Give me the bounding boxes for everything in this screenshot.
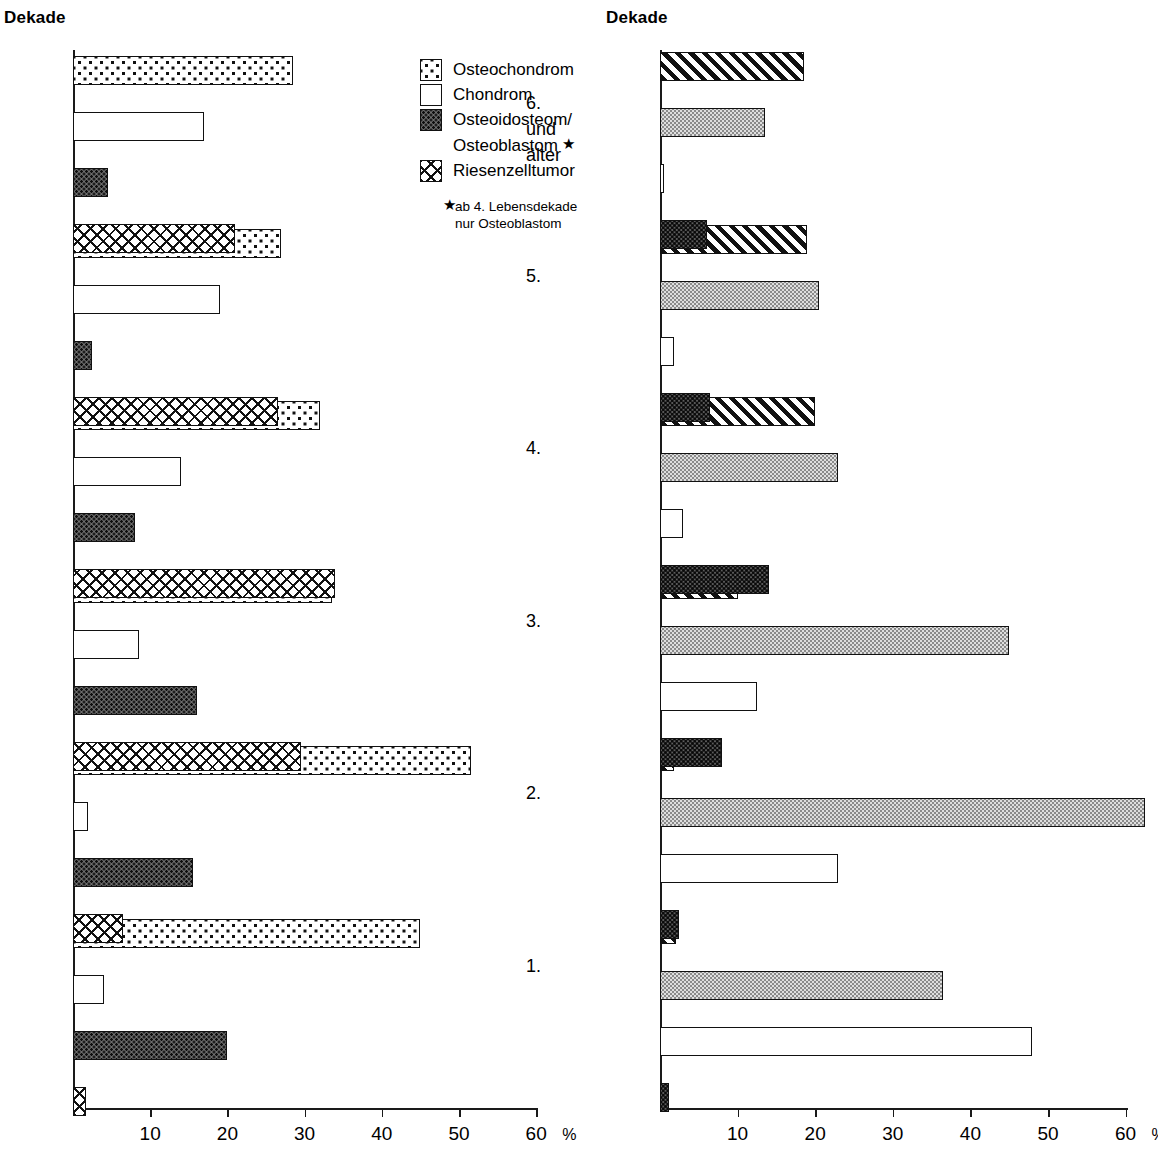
x-axis-tick: [738, 1108, 740, 1117]
bar: [73, 975, 104, 1004]
bar: [660, 738, 722, 767]
legend-swatch-cross-icon: [420, 160, 442, 182]
legend-swatch-darkdots-icon: [420, 109, 442, 131]
legend-left: OsteochondromChondromOsteoidosteom/ Oste…: [420, 58, 605, 184]
x-axis-tick: [536, 1108, 538, 1117]
x-axis-tick-label: 30: [282, 1123, 328, 1145]
legend-item: Osteoidosteom/ Osteoblastom ★: [420, 108, 605, 158]
bar: [660, 393, 710, 422]
x-axis-tick: [815, 1108, 817, 1117]
bar: [660, 971, 943, 1000]
x-axis-tick-label: 50: [436, 1123, 482, 1145]
bar: [73, 569, 335, 598]
bar: [660, 509, 683, 538]
bar: [660, 1027, 1032, 1056]
x-axis-tick: [382, 1108, 384, 1117]
bar: [73, 56, 293, 85]
x-axis-tick-label: 60: [513, 1123, 559, 1145]
legend-label: Chondrom: [453, 83, 532, 107]
x-axis-tick-label: 10: [715, 1123, 761, 1145]
bar: [660, 108, 765, 137]
legend-item: Riesenzelltumor: [420, 159, 605, 183]
legend-swatch-dots-icon: [420, 59, 442, 81]
bar: [73, 224, 235, 253]
figure-root: Dekade 102030405060%1.2.3.4.5.6. und ält…: [0, 0, 1158, 1166]
bar: [73, 914, 123, 943]
bar: [660, 337, 674, 366]
bar: [73, 1031, 227, 1060]
x-axis-tick: [459, 1108, 461, 1117]
bar: [660, 1083, 669, 1112]
bar: [660, 164, 664, 193]
x-axis-tick-label: 10: [127, 1123, 173, 1145]
x-axis-tick-label: 60: [1103, 1123, 1149, 1145]
x-axis-unit-label: %: [562, 1126, 576, 1144]
bar: [73, 686, 197, 715]
x-axis-unit-label: %: [1152, 1126, 1158, 1144]
bar: [660, 52, 804, 81]
x-axis-tick-label: 20: [792, 1123, 838, 1145]
legend-item: Osteochondrom: [420, 58, 605, 82]
bar: [660, 453, 838, 482]
bar: [73, 341, 92, 370]
x-axis-tick-label: 40: [359, 1123, 405, 1145]
decade-label: 3.: [526, 608, 541, 634]
x-axis-tick: [893, 1108, 895, 1117]
footnote-left: ab 4. Lebensdekade nur Osteoblastom: [455, 198, 577, 232]
legend-item: Chondrom: [420, 83, 605, 107]
bar: [660, 854, 838, 883]
x-axis-tick: [227, 1108, 229, 1117]
bar: [73, 742, 301, 771]
bar: [73, 630, 139, 659]
bar: [660, 682, 757, 711]
decade-label: 2.: [526, 780, 541, 806]
decade-label: 1.: [526, 953, 541, 979]
bar: [660, 281, 819, 310]
bar: [73, 397, 278, 426]
x-axis-tick: [1048, 1108, 1050, 1117]
chart-panel-malignant: Dekade 102030405060%1.2.3.4.5.6. und ält…: [588, 0, 1158, 1166]
bar: [660, 798, 1145, 827]
bar: [73, 919, 420, 948]
chart-panel-benign: Dekade 102030405060%1.2.3.4.5.6. und ält…: [0, 0, 600, 1166]
bar: [660, 220, 707, 249]
bar: [73, 858, 193, 887]
legend-label: Osteochondrom: [453, 58, 574, 82]
legend-swatch-white-icon: [420, 84, 442, 106]
decade-label: 4.: [526, 435, 541, 461]
decade-label: 5.: [526, 263, 541, 289]
x-axis-tick: [1126, 1108, 1128, 1117]
x-axis-tick: [305, 1108, 307, 1117]
x-axis-tick: [970, 1108, 972, 1117]
plot-area-right: 102030405060%1.2.3.4.5.6. und älter: [588, 0, 1158, 1166]
bar: [660, 910, 679, 939]
bar: [73, 168, 108, 197]
x-axis-tick-label: 20: [204, 1123, 250, 1145]
bar: [73, 112, 204, 141]
x-axis-tick-label: 50: [1025, 1123, 1071, 1145]
bar: [73, 513, 135, 542]
bar: [73, 285, 220, 314]
bar: [73, 1087, 86, 1116]
decade-label: 6. und älter: [526, 90, 561, 168]
x-axis-tick: [150, 1108, 152, 1117]
bar: [73, 457, 181, 486]
bar: [73, 802, 88, 831]
bar: [660, 565, 769, 594]
bar: [660, 626, 1009, 655]
x-axis-tick-label: 40: [947, 1123, 993, 1145]
x-axis-tick-label: 30: [870, 1123, 916, 1145]
